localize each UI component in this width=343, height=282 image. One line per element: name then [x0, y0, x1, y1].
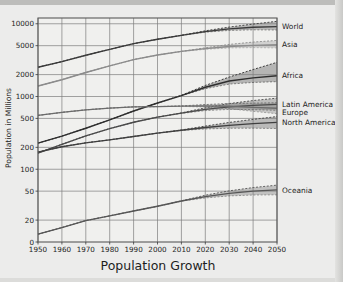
y-axis-title: Population in Millions — [4, 88, 13, 168]
x-tick-label: 1990 — [124, 245, 143, 254]
x-tick-label: 2000 — [148, 245, 167, 254]
y-tick-label: 2000 — [16, 70, 35, 79]
x-tick-label: 1960 — [53, 245, 72, 254]
x-tick-label: 2020 — [196, 245, 215, 254]
x-axis-ticks: 1950196019701980199020002010202020302040… — [29, 242, 287, 254]
series-label-europe: Europe — [282, 108, 308, 117]
y-tick-label: 1000 — [16, 92, 35, 101]
series-label-asia: Asia — [282, 40, 298, 49]
x-tick-label: 2050 — [268, 245, 287, 254]
y-tick-label: 20 — [25, 216, 35, 225]
x-tick-label: 1980 — [101, 245, 120, 254]
series-label-oceania: Oceania — [282, 186, 312, 195]
y-tick-label: 50 — [25, 187, 35, 196]
series-label-north-america: North America — [282, 118, 336, 127]
y-tick-label: 10000 — [11, 19, 34, 28]
population-growth-chart: 1950196019701980199020002010202020302040… — [0, 0, 343, 282]
y-tick-label: 200 — [20, 143, 34, 152]
y-tick-label: 5000 — [16, 41, 35, 50]
y-tick-label: 100 — [20, 165, 34, 174]
y-tick-label: 500 — [20, 114, 34, 123]
series-label-africa: Africa — [282, 71, 303, 80]
y-tick-label: 0 — [29, 238, 34, 247]
series-label-world: World — [282, 22, 303, 31]
page-edge-right — [335, 0, 343, 282]
x-tick-label: 2030 — [220, 245, 239, 254]
y-axis-ticks: 0205010020050010002000500010000 — [11, 19, 38, 246]
series-labels: WorldAsiaAfricaLatin AmericaEuropeNorth … — [282, 22, 336, 194]
x-tick-label: 1970 — [77, 245, 96, 254]
x-tick-label: 2010 — [172, 245, 191, 254]
x-tick-label: 2040 — [244, 245, 263, 254]
chart-page: 1950196019701980199020002010202020302040… — [0, 0, 343, 282]
chart-title: Population Growth — [101, 258, 216, 273]
